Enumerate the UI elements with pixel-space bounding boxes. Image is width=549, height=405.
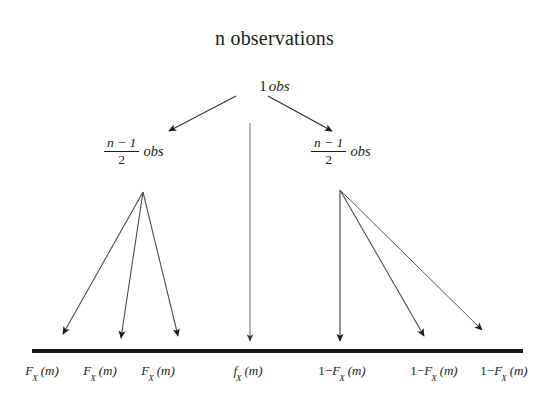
diagram-arrows-layer (0, 0, 549, 405)
leaf-1-subscript: X (32, 373, 38, 383)
node-root-unit: obs (267, 78, 290, 94)
node-root: 1obs (0, 79, 549, 94)
fraction-left: n − 1 2 (104, 136, 139, 167)
leaf-5-prefix: 1− (318, 363, 332, 378)
leaf-6-subscript: X (431, 373, 437, 383)
arrow-right-branch-to-leaf-6 (340, 190, 424, 336)
leaf-1-argument: (m) (39, 363, 59, 378)
leaf-label-7: 1−FX(m) (480, 364, 527, 381)
node-left-unit: obs (139, 144, 163, 159)
leaf-7-prefix: 1− (480, 363, 494, 378)
node-left-branch: n − 1 2 obs (104, 136, 164, 167)
fraction-left-numerator: n − 1 (104, 136, 139, 151)
arrow-left-branch-to-leaf-3 (143, 192, 178, 336)
leaf-label-1: FX(m) (25, 364, 59, 381)
arrow-left-branch-to-leaf-1 (63, 192, 143, 334)
leaf-5-argument: (m) (346, 363, 366, 378)
leaf-4-subscript: X (236, 373, 242, 383)
fraction-right: n − 1 2 (311, 136, 346, 167)
leaf-6-prefix: 1− (410, 363, 424, 378)
arrow-root-to-right (268, 96, 332, 131)
node-right-branch: n − 1 2 obs (311, 136, 371, 167)
leaf-3-argument: (m) (155, 363, 175, 378)
leaf-label-3: FX(m) (141, 364, 175, 381)
leaf-2-argument: (m) (97, 363, 117, 378)
node-root-count: 1 (259, 78, 267, 94)
leaf-label-5: 1−FX(m) (318, 364, 365, 381)
leaf-label-6: 1−FX(m) (410, 364, 457, 381)
arrow-left-branch-to-leaf-2 (121, 192, 143, 338)
leaf-7-subscript: X (501, 373, 507, 383)
leaf-6-argument: (m) (438, 363, 458, 378)
leaf-2-subscript: X (90, 373, 96, 383)
figure-title: n observations (0, 28, 549, 48)
fraction-right-numerator: n − 1 (311, 136, 346, 151)
arrow-root-to-left (169, 96, 236, 131)
leaf-label-4: fX(m) (233, 364, 262, 381)
leaf-7-argument: (m) (508, 363, 528, 378)
leaf-4-argument: (m) (243, 363, 263, 378)
figure-canvas: n observations 1obs n − 1 2 obs n − 1 2 … (0, 0, 549, 405)
fraction-left-denominator: 2 (115, 152, 128, 167)
leaf-label-2: FX(m) (83, 364, 117, 381)
arrow-right-branch-to-leaf-7 (340, 190, 482, 330)
node-right-unit: obs (346, 144, 370, 159)
fraction-right-denominator: 2 (322, 152, 335, 167)
leaf-3-subscript: X (148, 373, 154, 383)
leaf-5-subscript: X (339, 373, 345, 383)
